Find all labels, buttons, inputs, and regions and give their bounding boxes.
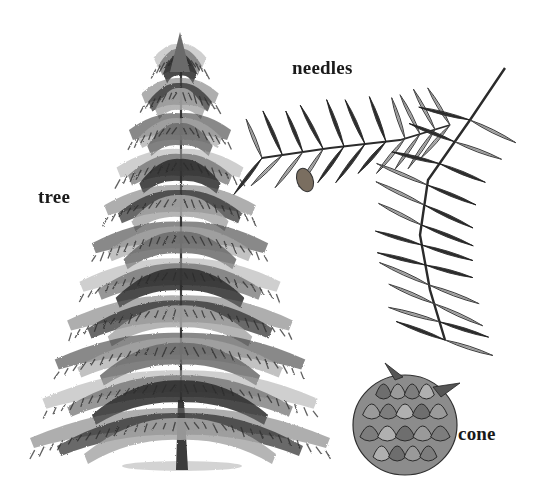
- needles-label: needles: [292, 58, 353, 77]
- tree-illustration: [30, 32, 331, 471]
- conifer-diagram: tree needles cone: [0, 0, 534, 496]
- cone-illustration: [353, 363, 460, 475]
- needles-illustration: [234, 68, 516, 355]
- illustration-canvas: [0, 0, 534, 496]
- tree-label: tree: [38, 187, 70, 206]
- cone-label: cone: [458, 424, 496, 443]
